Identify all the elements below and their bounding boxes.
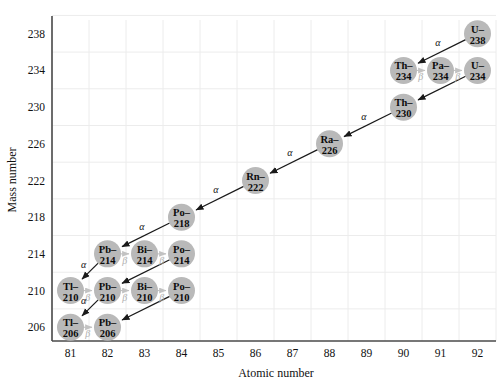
- decay-label-alpha-Po-218-to-Pb-214: α: [139, 221, 145, 232]
- node-symbol-Bi-210: Bi–: [137, 281, 153, 292]
- node-mass-Pa-234: 234: [433, 71, 450, 82]
- isotope-node-Po-218[interactable]: Po–218: [168, 204, 195, 231]
- isotope-node-Po-214[interactable]: Po–214: [168, 240, 195, 267]
- isotope-node-U-238[interactable]: U–238: [464, 20, 491, 47]
- node-mass-Th-230: 230: [396, 108, 412, 119]
- isotope-node-Po-210[interactable]: Po–210: [168, 277, 195, 304]
- node-mass-Rn-222: 222: [248, 182, 264, 193]
- y-tick-222: 222: [28, 175, 46, 187]
- x-tick-91: 91: [435, 347, 447, 359]
- x-axis-tick-labels: 818283848586878889909192: [65, 347, 484, 359]
- isotope-node-Th-234[interactable]: Th–234: [390, 57, 417, 84]
- x-tick-82: 82: [102, 347, 114, 359]
- node-symbol-Rn-222: Rn–: [246, 171, 265, 182]
- x-tick-81: 81: [65, 347, 77, 359]
- decay-label-alpha-U-238-to-Th-234: α: [435, 37, 441, 48]
- node-mass-Po-210: 210: [174, 292, 190, 303]
- y-tick-234: 234: [28, 64, 46, 76]
- node-mass-Po-218: 218: [174, 218, 190, 229]
- decay-label-alpha-Pb-214-to-Tl-210: α: [81, 259, 87, 270]
- x-tick-89: 89: [361, 347, 373, 359]
- decay-label-beta-Pb-214-to-Bi-214: β: [121, 255, 127, 266]
- node-symbol-U-238: U–: [471, 24, 485, 35]
- x-tick-88: 88: [324, 347, 336, 359]
- node-symbol-Tl-206: Tl–: [63, 317, 79, 328]
- isotope-node-U-234[interactable]: U–234: [464, 57, 491, 84]
- node-mass-Tl-206: 206: [63, 328, 79, 339]
- isotope-node-Pa-234[interactable]: Pa–234: [427, 57, 454, 84]
- y-tick-210: 210: [28, 285, 46, 297]
- decay-label-alpha-Ra-226-to-Rn-222: α: [287, 147, 293, 158]
- isotope-node-Rn-222[interactable]: Rn–222: [242, 167, 269, 194]
- y-tick-218: 218: [28, 211, 46, 223]
- decay-label-alpha-Rn-222-to-Po-218: α: [213, 184, 219, 195]
- isotope-node-Ra-226[interactable]: Ra–226: [316, 130, 343, 157]
- isotope-node-Tl-206[interactable]: Tl–206: [57, 314, 84, 341]
- y-axis-tick-labels: 206210214218222226230234238: [28, 28, 46, 333]
- node-symbol-U-234: U–: [471, 60, 485, 71]
- x-tick-85: 85: [213, 347, 225, 359]
- node-mass-Bi-214: 214: [137, 255, 154, 266]
- node-mass-Po-214: 214: [174, 255, 191, 266]
- decay-chain-chart: 818283848586878889909192 206210214218222…: [0, 0, 502, 388]
- isotope-node-Tl-210[interactable]: Tl–210: [57, 277, 84, 304]
- isotope-node-Bi-214[interactable]: Bi–214: [131, 240, 158, 267]
- isotope-node-Pb-214[interactable]: Pb–214: [94, 240, 121, 267]
- node-symbol-Po-210: Po–: [173, 281, 191, 292]
- node-symbol-Pa-234: Pa–: [432, 60, 450, 71]
- node-symbol-Bi-214: Bi–: [137, 244, 153, 255]
- decay-label-beta-Th-234-to-Pa-234: β: [417, 71, 423, 82]
- node-symbol-Tl-210: Tl–: [63, 281, 79, 292]
- node-symbol-Pb-206: Pb–: [99, 317, 117, 328]
- y-tick-206: 206: [28, 321, 46, 333]
- y-tick-226: 226: [28, 138, 46, 150]
- node-mass-Pb-210: 210: [100, 292, 116, 303]
- node-mass-U-234: 234: [470, 71, 487, 82]
- y-tick-230: 230: [28, 101, 46, 113]
- node-mass-Tl-210: 210: [63, 292, 79, 303]
- decay-chain-figure: 818283848586878889909192 206210214218222…: [0, 0, 502, 388]
- x-axis-title: Atomic number: [238, 366, 314, 380]
- decay-label-beta-Pa-234-to-U-234: β: [454, 71, 460, 82]
- node-mass-U-238: 238: [470, 35, 486, 46]
- node-symbol-Pb-214: Pb–: [99, 244, 117, 255]
- isotope-node-Pb-206[interactable]: Pb–206: [94, 314, 121, 341]
- node-mass-Th-234: 234: [396, 71, 413, 82]
- decay-label-beta-Pb-210-to-Bi-210: β: [121, 292, 127, 303]
- node-symbol-Po-214: Po–: [173, 244, 191, 255]
- node-symbol-Th-234: Th–: [394, 60, 413, 71]
- x-tick-87: 87: [287, 347, 299, 359]
- y-axis-title: Mass number: [5, 148, 19, 213]
- x-tick-90: 90: [398, 347, 410, 359]
- node-symbol-Pb-210: Pb–: [99, 281, 117, 292]
- node-mass-Ra-226: 226: [322, 145, 338, 156]
- y-tick-214: 214: [28, 248, 46, 260]
- node-mass-Pb-214: 214: [100, 255, 117, 266]
- isotope-node-Pb-210[interactable]: Pb–210: [94, 277, 121, 304]
- decay-label-alpha-Th-230-to-Ra-226: α: [361, 111, 367, 122]
- y-tick-238: 238: [28, 28, 46, 40]
- x-tick-83: 83: [139, 347, 151, 359]
- decay-label-beta-Bi-214-to-Po-214: β: [158, 255, 164, 266]
- x-tick-86: 86: [250, 347, 262, 359]
- decay-label-beta-Bi-210-to-Po-210: β: [158, 292, 164, 303]
- node-mass-Bi-210: 210: [137, 292, 153, 303]
- decay-label-beta-Tl-206-to-Pb-206: β: [84, 328, 90, 339]
- x-tick-92: 92: [472, 347, 484, 359]
- node-mass-Pb-206: 206: [100, 328, 116, 339]
- x-tick-84: 84: [176, 347, 188, 359]
- node-symbol-Ra-226: Ra–: [320, 134, 339, 145]
- node-symbol-Po-218: Po–: [173, 207, 191, 218]
- isotope-node-Bi-210[interactable]: Bi–210: [131, 277, 158, 304]
- node-symbol-Th-230: Th–: [394, 97, 413, 108]
- isotope-node-Th-230[interactable]: Th–230: [390, 94, 417, 121]
